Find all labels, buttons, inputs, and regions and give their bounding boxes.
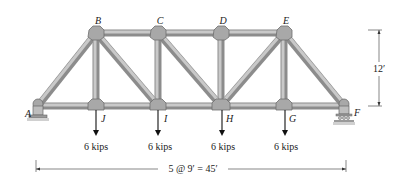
label-D: D [218,15,227,26]
node-H [212,99,230,110]
load-arrow-J [93,110,99,136]
label-B: B [95,15,101,26]
label-C: C [157,15,164,26]
span-dimension: 5 @ 9′ = 45′ [36,160,346,174]
load-label-H: 6 kips [211,141,235,152]
load-label-I: 6 kips [148,141,172,152]
node-E [276,26,292,40]
label-I: I [163,113,168,124]
node-B [88,26,104,40]
node-C [150,26,166,40]
node-D [213,26,229,40]
load-label-J: 6 kips [84,141,108,152]
label-H: H [225,113,234,124]
label-F: F [353,107,361,118]
node-J [88,99,104,110]
span-label: 5 @ 9′ = 45′ [168,163,217,174]
load-label-G: 6 kips [274,141,298,152]
label-A: A [24,108,32,119]
load-arrow-I [155,110,161,136]
label-J: J [101,113,106,124]
label-G: G [289,113,296,124]
load-arrow-H [219,110,225,136]
node-I [150,99,166,110]
load-arrow-G [282,110,288,136]
height-label: 12′ [373,63,385,74]
loads: 6 kips 6 kips 6 kips 6 kips [84,110,298,152]
truss-members [37,32,345,106]
height-dimension: 12′ [368,30,385,106]
label-E: E [282,15,289,26]
truss-diagram: 6 kips 6 kips 6 kips 6 kips B C D E A F … [0,0,406,184]
node-G [276,99,292,110]
